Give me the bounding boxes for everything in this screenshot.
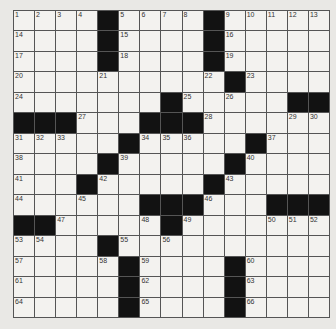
grid-cell[interactable] <box>183 72 203 91</box>
grid-cell[interactable] <box>119 72 139 91</box>
grid-cell[interactable]: 51 <box>288 216 308 235</box>
grid-cell[interactable]: 4 <box>77 11 97 30</box>
grid-cell[interactable] <box>267 113 287 132</box>
grid-cell[interactable] <box>35 72 55 91</box>
grid-cell[interactable] <box>288 175 308 194</box>
grid-cell[interactable] <box>309 257 329 276</box>
grid-cell[interactable] <box>161 72 181 91</box>
grid-cell[interactable] <box>309 72 329 91</box>
grid-cell[interactable]: 21 <box>98 72 118 91</box>
grid-cell[interactable] <box>204 216 224 235</box>
grid-cell[interactable]: 19 <box>225 52 245 71</box>
grid-cell[interactable] <box>161 298 181 317</box>
grid-cell[interactable] <box>267 298 287 317</box>
grid-cell[interactable]: 35 <box>161 134 181 153</box>
grid-cell[interactable]: 53 <box>14 236 34 255</box>
grid-cell[interactable] <box>267 72 287 91</box>
grid-cell[interactable] <box>56 154 76 173</box>
grid-cell[interactable] <box>77 216 97 235</box>
grid-cell[interactable] <box>204 277 224 296</box>
grid-cell[interactable] <box>183 277 203 296</box>
grid-cell[interactable]: 64 <box>14 298 34 317</box>
grid-cell[interactable] <box>204 93 224 112</box>
grid-cell[interactable] <box>161 52 181 71</box>
grid-cell[interactable]: 66 <box>246 298 266 317</box>
grid-cell[interactable]: 39 <box>119 154 139 173</box>
grid-cell[interactable] <box>246 113 266 132</box>
grid-cell[interactable] <box>183 154 203 173</box>
grid-cell[interactable] <box>77 277 97 296</box>
grid-cell[interactable] <box>77 154 97 173</box>
grid-cell[interactable] <box>267 31 287 50</box>
grid-cell[interactable]: 65 <box>140 298 160 317</box>
grid-cell[interactable]: 18 <box>119 52 139 71</box>
grid-cell[interactable] <box>98 216 118 235</box>
grid-cell[interactable] <box>183 257 203 276</box>
grid-cell[interactable]: 46 <box>204 195 224 214</box>
grid-cell[interactable] <box>56 72 76 91</box>
grid-cell[interactable]: 61 <box>14 277 34 296</box>
grid-cell[interactable] <box>119 195 139 214</box>
grid-cell[interactable]: 28 <box>204 113 224 132</box>
grid-cell[interactable] <box>140 93 160 112</box>
grid-cell[interactable] <box>161 277 181 296</box>
grid-cell[interactable] <box>56 31 76 50</box>
grid-cell[interactable]: 42 <box>98 175 118 194</box>
grid-cell[interactable] <box>35 175 55 194</box>
grid-cell[interactable]: 24 <box>14 93 34 112</box>
grid-cell[interactable] <box>35 93 55 112</box>
grid-cell[interactable] <box>288 277 308 296</box>
grid-cell[interactable]: 20 <box>14 72 34 91</box>
grid-cell[interactable]: 15 <box>119 31 139 50</box>
grid-cell[interactable]: 41 <box>14 175 34 194</box>
grid-cell[interactable] <box>288 236 308 255</box>
grid-cell[interactable]: 60 <box>246 257 266 276</box>
grid-cell[interactable]: 32 <box>35 134 55 153</box>
grid-cell[interactable] <box>77 31 97 50</box>
grid-cell[interactable]: 57 <box>14 257 34 276</box>
grid-cell[interactable]: 52 <box>309 216 329 235</box>
grid-cell[interactable] <box>246 175 266 194</box>
grid-cell[interactable] <box>35 298 55 317</box>
grid-cell[interactable]: 29 <box>288 113 308 132</box>
grid-cell[interactable]: 58 <box>98 257 118 276</box>
grid-cell[interactable] <box>267 175 287 194</box>
grid-cell[interactable] <box>267 236 287 255</box>
grid-cell[interactable]: 31 <box>14 134 34 153</box>
grid-cell[interactable]: 7 <box>161 11 181 30</box>
grid-cell[interactable] <box>288 298 308 317</box>
grid-cell[interactable] <box>98 113 118 132</box>
grid-cell[interactable]: 2 <box>35 11 55 30</box>
grid-cell[interactable] <box>225 216 245 235</box>
grid-cell[interactable] <box>204 257 224 276</box>
grid-cell[interactable] <box>246 31 266 50</box>
grid-cell[interactable] <box>309 298 329 317</box>
grid-cell[interactable] <box>204 298 224 317</box>
grid-cell[interactable] <box>77 257 97 276</box>
grid-cell[interactable] <box>56 52 76 71</box>
grid-cell[interactable]: 23 <box>246 72 266 91</box>
grid-cell[interactable] <box>56 175 76 194</box>
grid-cell[interactable]: 48 <box>140 216 160 235</box>
grid-cell[interactable]: 33 <box>56 134 76 153</box>
grid-cell[interactable] <box>225 236 245 255</box>
grid-cell[interactable]: 22 <box>204 72 224 91</box>
grid-cell[interactable]: 1 <box>14 11 34 30</box>
grid-cell[interactable] <box>98 134 118 153</box>
grid-cell[interactable]: 17 <box>14 52 34 71</box>
grid-cell[interactable] <box>183 52 203 71</box>
grid-cell[interactable] <box>56 195 76 214</box>
grid-cell[interactable] <box>225 113 245 132</box>
grid-cell[interactable]: 37 <box>267 134 287 153</box>
grid-cell[interactable] <box>246 93 266 112</box>
grid-cell[interactable]: 9 <box>225 11 245 30</box>
grid-cell[interactable]: 36 <box>183 134 203 153</box>
grid-cell[interactable] <box>309 31 329 50</box>
grid-cell[interactable] <box>267 257 287 276</box>
grid-cell[interactable] <box>77 236 97 255</box>
grid-cell[interactable] <box>288 134 308 153</box>
grid-cell[interactable]: 12 <box>288 11 308 30</box>
grid-cell[interactable]: 10 <box>246 11 266 30</box>
grid-cell[interactable]: 14 <box>14 31 34 50</box>
grid-cell[interactable] <box>35 277 55 296</box>
